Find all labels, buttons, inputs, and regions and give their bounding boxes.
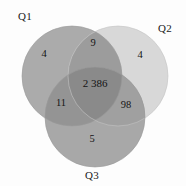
region-value-q3-only: 5 [89,134,94,145]
set-label-q1: Q1 [18,11,32,22]
region-value-q1-q2: 9 [90,38,95,49]
region-value-q2-only: 4 [137,50,142,61]
set-label-q3: Q3 [85,170,99,181]
set-label-q2: Q2 [158,23,172,34]
region-value-q1-q3: 11 [56,98,66,109]
region-value-q1-q2-q3: 2 386 [83,78,108,89]
region-value-q2-q3: 98 [121,100,132,111]
venn-diagram-figure: Q1 Q2 Q3 4 9 4 2 386 11 98 5 [0,0,186,186]
region-value-q1-only: 4 [41,49,46,60]
